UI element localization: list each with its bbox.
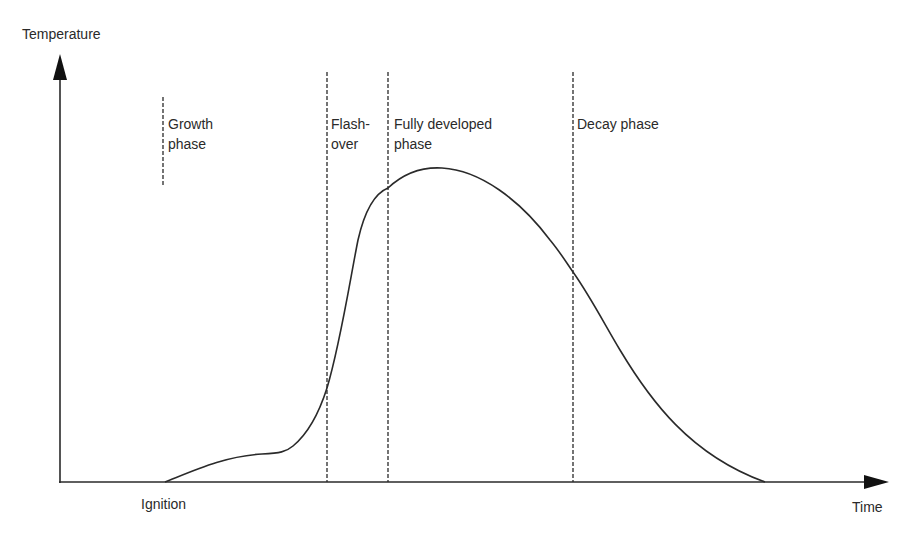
decay-phase-label-line1: Decay phase [577,114,659,134]
x-axis-label: Time [852,497,883,517]
flashover-label-line2: over [331,134,370,154]
temperature-curve [165,168,765,482]
y-axis-label: Temperature [22,24,101,44]
fire-curve-diagram [0,0,924,540]
x-axis-arrow-icon [864,475,889,489]
ignition-label: Ignition [141,494,186,514]
fully-developed-label-line1: Fully developed [394,114,492,134]
fully-developed-label-line2: phase [394,134,492,154]
fully-developed-label: Fully developed phase [394,114,492,154]
growth-phase-label: Growth phase [168,114,213,154]
growth-phase-label-line2: phase [168,134,213,154]
flashover-label: Flash- over [331,114,370,154]
decay-phase-label: Decay phase [577,114,659,134]
y-axis-arrow-icon [53,54,67,80]
growth-phase-label-line1: Growth [168,114,213,134]
flashover-label-line1: Flash- [331,114,370,134]
